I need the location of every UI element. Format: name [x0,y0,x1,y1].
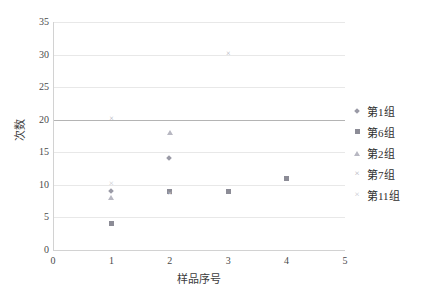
legend-item-label: 第7组 [367,166,395,182]
legend-item[interactable]: 第2组 [352,142,424,163]
gridline-y-30 [53,55,345,56]
data-point [166,191,173,198]
gridline-y-25 [53,87,345,88]
scatter-chart-figure: 05101520253035 012345 次数 样品序号 第1组第6组第2组第… [0,0,426,293]
y-tick-label: 10 [19,180,49,190]
data-point [225,51,232,58]
gridline-y-10 [53,185,345,186]
y-axis-title: 次数 [11,107,27,153]
x-tick-label: 2 [158,256,182,266]
legend-item-label: 第11组 [367,187,400,203]
gridline-y-15 [53,152,345,153]
diamond-marker-icon [352,106,362,116]
chart-legend: 第1组第6组第2组第7组第11组 [352,100,424,205]
x-axis-line [53,250,345,251]
y-tick-label: 30 [19,50,49,60]
legend-item[interactable]: 第7组 [352,163,424,184]
x-tick-label: 3 [216,256,240,266]
cross2-marker-icon [352,190,362,200]
data-point [166,155,173,162]
triangle-marker-icon [352,148,362,158]
plot-area [53,22,345,250]
x-tick-label: 5 [333,256,357,266]
x-axis-title: 样品序号 [53,270,345,286]
gridline-y-5 [53,217,345,218]
legend-item[interactable]: 第6组 [352,121,424,142]
x-axis-tick-labels: 012345 [53,256,345,270]
gridline-y-35 [53,22,345,23]
cross-marker-icon [352,169,362,179]
y-tick-label: 25 [19,82,49,92]
y-tick-label: 5 [19,212,49,222]
data-point [225,188,232,195]
data-point [166,129,173,136]
data-point [108,116,115,123]
legend-item-label: 第1组 [367,103,395,119]
data-point [283,175,290,182]
data-point [108,194,115,201]
gridline-y-20 [53,120,345,121]
y-axis-line [53,22,54,251]
x-tick-label: 1 [99,256,123,266]
legend-item-label: 第2组 [367,145,395,161]
data-point [108,181,115,188]
y-tick-label: 35 [19,17,49,27]
y-tick-label: 0 [19,245,49,255]
legend-item[interactable]: 第11组 [352,184,424,205]
legend-item-label: 第6组 [367,124,395,140]
x-tick-label: 0 [41,256,65,266]
data-point [108,220,115,227]
legend-item[interactable]: 第1组 [352,100,424,121]
square-marker-icon [352,127,362,137]
x-tick-label: 4 [275,256,299,266]
